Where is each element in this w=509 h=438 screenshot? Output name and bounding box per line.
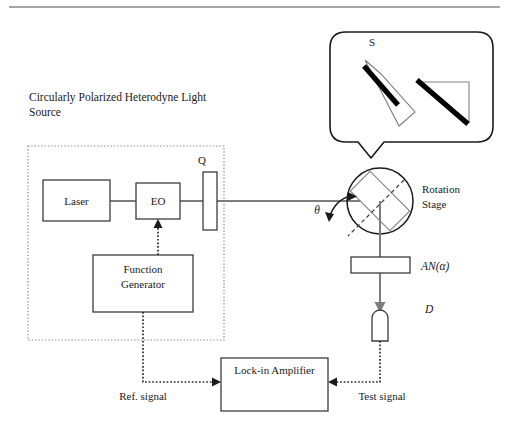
rotation-stage-label-line1: Rotation [422, 183, 460, 195]
sample-callout-label: S [369, 36, 375, 48]
laser-label: Laser [64, 195, 89, 207]
drive-signal-arrowhead [154, 219, 163, 228]
source-title-line2: Source [29, 106, 61, 118]
reference-signal-label: Ref. signal [119, 390, 167, 402]
reference-signal-path [143, 312, 213, 382]
analyzer-box [351, 257, 410, 273]
function-generator-label-line2: Generator [121, 278, 165, 290]
lockin-amplifier-label: Lock-in Amplifier [234, 364, 315, 376]
detector-label: D [424, 303, 434, 315]
eo-modulator-label: EO [151, 195, 166, 207]
diagram-canvas: S Circularly Polarized Heterodyne Light … [0, 0, 509, 438]
reference-signal-arrowhead [212, 378, 221, 387]
quarter-waveplate-box [203, 172, 217, 230]
optical-setup-figure: S Circularly Polarized Heterodyne Light … [0, 0, 509, 438]
detector-body [372, 310, 388, 341]
test-signal-path [336, 341, 380, 382]
test-signal-label: Test signal [358, 390, 405, 402]
incidence-angle-label: θ [314, 204, 320, 216]
analyzer-label: AN(α) [420, 260, 450, 273]
rotation-stage-label-line2: Stage [422, 198, 447, 210]
function-generator-label-line1: Function [123, 263, 163, 275]
test-signal-arrowhead [328, 378, 337, 387]
quarter-waveplate-label: Q [198, 154, 206, 166]
source-title-line1: Circularly Polarized Heterodyne Light [29, 91, 207, 104]
incidence-angle-arrowhead-lower [325, 212, 334, 222]
